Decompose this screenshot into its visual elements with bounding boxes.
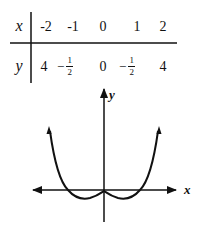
y-axis-label: y	[109, 87, 115, 103]
curve-left-arrow-icon	[47, 126, 52, 134]
graph-and-table-lines	[0, 0, 206, 233]
x-axis-label: x	[184, 182, 191, 198]
curve-right-arrow-icon	[157, 126, 162, 134]
